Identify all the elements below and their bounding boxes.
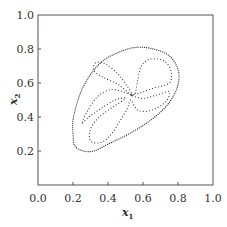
series-outer-boundary: [73, 47, 179, 152]
y-tick-label: 0.2: [17, 145, 35, 158]
x-tick-label: 0.2: [64, 192, 82, 205]
x-tick-label: 0.8: [169, 192, 187, 205]
series-inner-petals: [82, 59, 172, 143]
x-tick-label: 0.4: [99, 192, 117, 205]
y-tick-label: 0.6: [17, 77, 35, 90]
y-axis-label-sub: 2: [13, 93, 22, 98]
chart: 0.00.20.40.60.81.0 0.20.40.60.81.0 x1 x2: [0, 0, 227, 227]
y-axis-label: x2: [7, 93, 22, 106]
series-layer: [73, 47, 179, 152]
y-tick-label: 0.4: [17, 111, 35, 124]
y-tick-label: 1.0: [17, 9, 35, 22]
x-axis-label: x1: [121, 206, 134, 221]
y-tick-label: 0.8: [17, 43, 35, 56]
plot-area-frame: [38, 15, 213, 185]
x-tick-label: 1.0: [204, 192, 222, 205]
x-tick-label: 0.6: [134, 192, 152, 205]
y-axis-ticks: 0.20.40.60.81.0: [17, 9, 42, 158]
x-tick-label: 0.0: [29, 192, 47, 205]
x-axis-label-sub: 1: [129, 212, 134, 221]
